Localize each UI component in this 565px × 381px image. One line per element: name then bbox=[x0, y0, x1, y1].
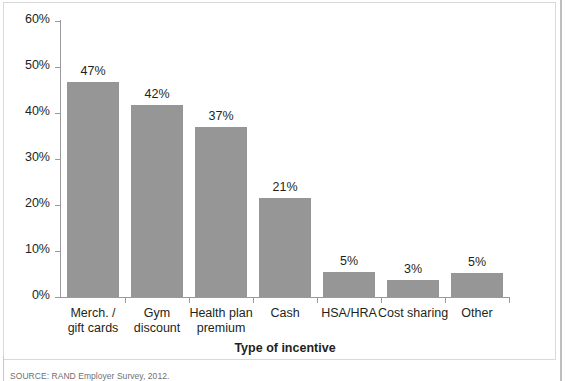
chart-page: 0%10%20%30%40%50%60% 47%42%37%21%5%3%5% … bbox=[0, 0, 565, 381]
bar-value-label: 21% bbox=[253, 180, 317, 194]
bar-value-label: 42% bbox=[125, 87, 189, 101]
bar bbox=[259, 198, 311, 297]
bar bbox=[195, 127, 247, 297]
x-axis-tick-mark bbox=[381, 297, 382, 303]
bar-value-label: 5% bbox=[317, 254, 381, 268]
bar-value-label: 3% bbox=[381, 262, 445, 276]
y-axis-tick-label: 20% bbox=[25, 196, 50, 210]
y-axis-tick-label: 0% bbox=[32, 288, 50, 302]
x-axis-tick-mark bbox=[445, 297, 446, 303]
x-axis-line bbox=[60, 297, 510, 298]
bar bbox=[451, 273, 503, 297]
bar-value-label: 5% bbox=[445, 255, 509, 269]
bar bbox=[323, 272, 375, 297]
plot-area bbox=[61, 21, 509, 297]
bar bbox=[131, 105, 183, 297]
x-axis-category-label-line: premium bbox=[183, 321, 259, 336]
source-note: SOURCE: RAND Employer Survey, 2012. bbox=[10, 371, 169, 381]
y-axis-tick-label: 50% bbox=[25, 58, 50, 72]
y-axis-tick-label: 40% bbox=[25, 104, 50, 118]
x-axis-category-label-line: Other bbox=[439, 306, 515, 321]
x-axis-title: Type of incentive bbox=[61, 341, 509, 355]
x-axis-tick-mark bbox=[509, 297, 510, 303]
bar bbox=[387, 280, 439, 297]
bar-value-label: 47% bbox=[61, 64, 125, 78]
x-axis-tick-mark bbox=[253, 297, 254, 303]
chart-frame: 0%10%20%30%40%50%60% 47%42%37%21%5%3%5% … bbox=[3, 2, 556, 360]
x-axis-tick-mark bbox=[317, 297, 318, 303]
bar-value-label: 37% bbox=[189, 109, 253, 123]
left-edge-rule bbox=[3, 356, 4, 381]
y-axis-tick-mark bbox=[55, 297, 61, 298]
y-axis-tick-label: 10% bbox=[25, 242, 50, 256]
y-axis-tick-label: 30% bbox=[25, 150, 50, 164]
x-axis-tick-mark bbox=[189, 297, 190, 303]
x-axis-tick-mark bbox=[125, 297, 126, 303]
x-axis-category-label: Other bbox=[439, 306, 515, 321]
y-axis-tick-label: 60% bbox=[25, 12, 50, 26]
right-edge-rule bbox=[560, 0, 562, 381]
bar bbox=[67, 82, 119, 297]
